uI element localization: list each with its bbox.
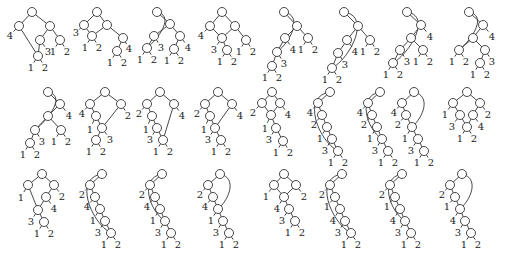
tree-node [166,20,175,29]
tree-13: 241312 [250,88,293,159]
leaf-label: 1 [341,239,347,250]
leaf-label: 4 [185,42,191,53]
leaf-label: 1 [442,109,448,120]
tree-node [456,111,465,120]
leaf-label: 1 [402,133,408,144]
leaf-label: 1 [262,123,268,134]
leaf-label: 1 [449,56,455,67]
leaf-label: 4 [79,108,85,119]
tree-node [391,193,400,202]
tree-node [338,170,347,179]
tree-node [446,181,455,190]
leaf-label: 2 [100,146,106,157]
leaf-label: 4 [179,110,185,121]
leaf-label: 1 [413,56,419,67]
tree-node [366,36,375,45]
tree-node [88,32,97,41]
tree-node [396,46,405,55]
leaf-label: 2 [392,157,398,168]
tree-node [50,181,59,190]
leaf-label: 1 [18,192,24,203]
tree-node [276,99,285,108]
leaf-label: 2 [194,108,200,119]
tree-node [161,217,170,226]
tree-node [408,123,417,132]
leaf-label: 3 [95,227,101,238]
leaf-label: 1 [378,157,384,168]
leaf-label: 2 [311,119,317,130]
leaf-label: 2 [96,42,102,53]
leaf-label: 2 [415,239,421,250]
tree-node [28,8,37,17]
leaf-label: 1 [384,201,390,212]
tree-node [331,193,340,202]
leaf-label: 2 [115,239,121,250]
tree-node [463,123,472,132]
leaf-label: 3 [489,56,495,67]
leaf-label: 2 [233,239,239,250]
leaf-label: 1 [401,239,407,250]
tree-node [92,136,101,145]
tree-4: 431212 [198,8,256,68]
tree-2: 312412 [73,8,132,69]
tree-node [336,205,345,214]
leaf-label: 2 [319,189,325,200]
tree-node [56,36,65,45]
leaf-label: 2 [484,69,490,80]
tree-node [119,34,128,43]
tree-node [40,218,49,227]
tree-node [34,52,43,61]
tree-node [291,217,300,226]
leaf-label: 1 [82,42,88,53]
tree-node [341,217,350,226]
tree-node [384,147,393,156]
leaf-label: 1 [273,147,279,158]
leaf-label: 1 [236,46,242,57]
leaf-label: 4 [450,215,456,226]
tree-8: 412312 [449,8,495,81]
tree-node [231,22,240,31]
leaf-label: 1 [217,56,223,67]
tree-node [211,124,220,133]
tree-node [34,206,43,215]
tree-node [318,111,327,120]
tree-node [101,88,110,97]
leaf-label: 2 [301,191,307,202]
tree-23: 214312 [319,170,361,251]
tree-diagram-grid: 4123123124123124124312124312124312124312… [0,0,505,254]
tree-node [113,47,122,56]
tree-node [218,34,227,43]
tree-node [156,205,165,214]
leaf-label: 3 [372,145,378,156]
leaf-label: 2 [136,108,142,119]
leaf-label: 2 [379,189,385,200]
tree-node [407,34,416,43]
leaf-label: 3 [73,27,79,38]
tree-node [389,59,398,68]
tree-node [463,88,472,97]
tree-node [15,22,24,31]
leaf-label: 1 [20,149,26,160]
leaf-label: 2 [151,54,157,65]
leaf-label: 1 [28,62,34,73]
leaf-label: 1 [263,191,269,202]
tree-node [279,137,288,146]
leaf-label: 2 [139,189,145,200]
leaf-label: 3 [266,134,272,145]
leaf-label: 4 [7,30,13,41]
tree-node [156,88,165,97]
tree-node [401,217,410,226]
tree-node [402,111,411,120]
leaf-label: 4 [198,30,204,41]
tree-node [461,217,470,226]
leaf-label: 1 [383,69,389,80]
tree-node [479,21,488,30]
leaf-label: 3 [107,134,113,145]
tree-node [285,205,294,214]
leaf-label: 2 [65,136,71,147]
tree-node [143,44,152,53]
leaf-label: 1 [317,133,323,144]
tree-node [281,34,290,43]
leaf-label: 3 [408,145,414,156]
leaf-label: 2 [250,46,256,57]
